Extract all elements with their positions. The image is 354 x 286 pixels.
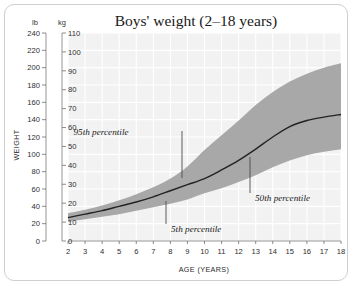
y-tick-label-lb: 80 [32, 167, 40, 176]
x-tick-label: 10 [200, 247, 208, 256]
y-tick-label-kg: 30 [68, 180, 76, 189]
y-tick-label-kg: 20 [68, 199, 76, 208]
y-tick-label-lb: 240 [27, 29, 40, 38]
annotation-label: 50th percentile [255, 193, 310, 203]
y-tick-label-lb: 200 [27, 63, 40, 72]
annotation-label: 5th percentile [171, 224, 221, 234]
x-tick-label: 14 [269, 247, 277, 256]
x-tick-label: 15 [286, 247, 294, 256]
y-tick-label-lb: 20 [32, 219, 40, 228]
y-tick-label-lb: 160 [27, 98, 40, 107]
y-tick-label-lb: 100 [27, 150, 40, 159]
x-tick-label: 6 [134, 247, 138, 256]
x-axis-ticks: 23456789101112131415161718 [66, 241, 345, 256]
x-tick-label: 2 [66, 247, 70, 256]
x-tick-label: 11 [218, 247, 226, 256]
x-tick-label: 17 [320, 247, 328, 256]
y-tick-label-kg: 0 [68, 237, 72, 246]
y-tick-label-kg: 50 [68, 142, 76, 151]
x-axis-title: AGE (YEARS) [179, 265, 230, 274]
x-tick-label: 5 [117, 247, 121, 256]
y-tick-label-kg: 40 [68, 161, 76, 170]
y-tick-label-lb: 140 [27, 115, 40, 124]
x-tick-label: 3 [83, 247, 87, 256]
growth-chart: Boys' weight (2–18 years) lb kg 02040608… [5, 5, 347, 280]
y-axis-title: WEIGHT [12, 129, 21, 160]
y-tick-label-lb: 220 [27, 46, 40, 55]
y-tick-label-kg: 100 [68, 48, 81, 57]
y-tick-label-lb: 40 [32, 202, 40, 211]
y-tick-label-kg: 90 [68, 67, 76, 76]
x-tick-label: 7 [151, 247, 155, 256]
x-tick-label: 8 [168, 247, 172, 256]
y-tick-label-kg: 10 [68, 218, 76, 227]
y-axis-lb-ticks: 020406080100120140160180200220240 [27, 29, 46, 246]
page-title: Boys' weight (2–18 years) [115, 12, 278, 30]
y-tick-label-lb: 0 [36, 237, 40, 246]
x-tick-label: 9 [185, 247, 189, 256]
x-tick-label: 4 [100, 247, 104, 256]
x-tick-label: 16 [303, 247, 311, 256]
x-tick-label: 18 [337, 247, 345, 256]
y-tick-label-lb: 60 [32, 185, 40, 194]
kg-unit-header: kg [58, 18, 66, 27]
x-tick-label: 12 [234, 247, 242, 256]
y-tick-label-lb: 180 [27, 81, 40, 90]
x-tick-label: 13 [251, 247, 259, 256]
y-tick-label-kg: 70 [68, 104, 76, 113]
lb-unit-header: lb [32, 18, 38, 27]
y-tick-label-kg: 80 [68, 85, 76, 94]
y-tick-label-kg: 110 [68, 29, 80, 38]
y-tick-label-lb: 120 [27, 133, 40, 142]
chart-frame: Boys' weight (2–18 years) lb kg 02040608… [4, 4, 348, 281]
annotation-label: 95th percentile [73, 127, 128, 137]
